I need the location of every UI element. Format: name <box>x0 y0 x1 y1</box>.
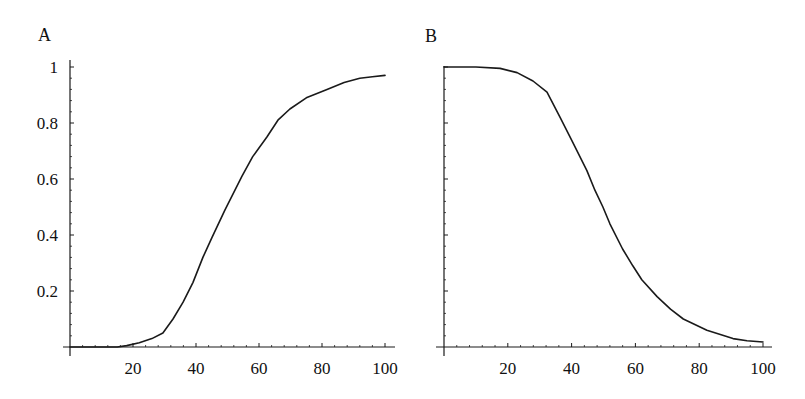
panel-b-x-tick-label: 80 <box>691 359 708 378</box>
panel-a-x-tick-label: 60 <box>251 359 268 378</box>
panel-a-y-tick-label: 0.4 <box>37 226 59 245</box>
panel-b-x-tick-label: 60 <box>627 359 644 378</box>
panel-a-series-line <box>70 75 385 347</box>
panel-a-y-tick-label: 0.2 <box>37 282 58 301</box>
panel-a-x-tick-label: 100 <box>372 359 398 378</box>
panel-a: A 204060801000.20.40.60.81 <box>37 25 398 378</box>
panel-a-label: A <box>38 25 51 45</box>
panel-a-x-tick-label: 40 <box>188 359 205 378</box>
panel-b-x-tick-label: 20 <box>499 359 516 378</box>
figure: A 204060801000.20.40.60.81 B 20406080100 <box>0 0 805 399</box>
panel-a-y-tick-label: 1 <box>50 58 59 77</box>
panel-b: B 20406080100 <box>425 26 776 378</box>
panel-b-label: B <box>425 26 437 46</box>
panel-a-y-tick-label: 0.8 <box>37 114 58 133</box>
panel-b-x-tick-label: 40 <box>563 359 580 378</box>
panel-a-x-tick-label: 20 <box>125 359 142 378</box>
panel-b-series-line <box>444 67 763 342</box>
panel-b-x-tick-label: 100 <box>750 359 776 378</box>
panel-a-x-tick-label: 80 <box>314 359 331 378</box>
panel-a-y-tick-label: 0.6 <box>37 170 58 189</box>
